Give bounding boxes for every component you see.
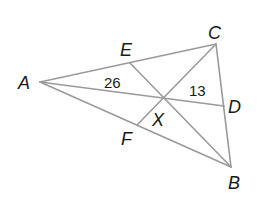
measure-ax: 26 [104,74,121,91]
label-e: E [120,40,133,60]
label-d: D [228,97,241,117]
label-c: C [208,23,222,43]
triangle-figure: A C E D X F B 26 13 [0,0,263,201]
measure-xd: 13 [189,82,206,99]
label-b: B [228,173,240,193]
label-a: A [17,73,30,93]
median-eb [130,63,231,167]
label-x: X [151,110,165,130]
geometry-diagram: A C E D X F B 26 13 [0,0,263,201]
label-f: F [121,129,133,149]
